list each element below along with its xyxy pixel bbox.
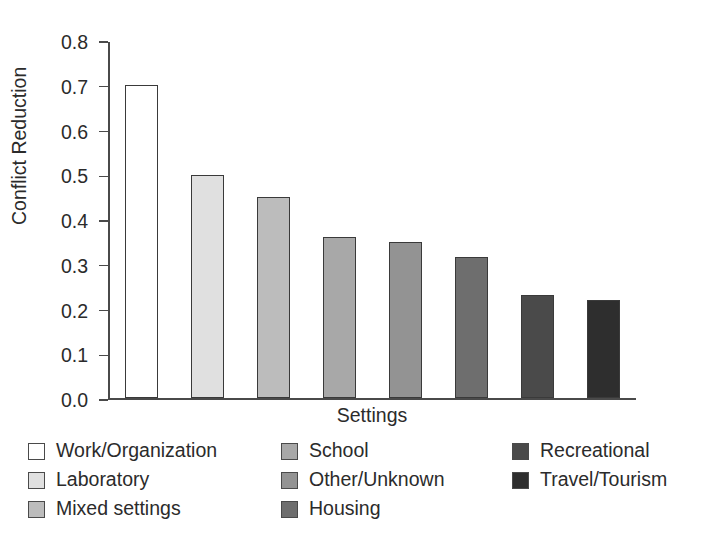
legend-item-label: Travel/Tourism [540,470,667,490]
x-axis-line [108,398,636,400]
y-axis-tick [99,265,108,266]
legend-item: Housing [281,495,444,523]
legend-swatch-icon [281,472,298,489]
legend-column-2: SchoolOther/UnknownHousing [281,437,444,524]
legend-swatch-icon [28,443,45,460]
y-axis-tick [99,355,108,356]
y-axis-line [108,42,110,400]
legend-item-label: Mixed settings [56,499,181,519]
y-axis-tick-label: 0.4 [61,210,88,233]
bar-school [323,237,356,398]
legend-column-1: Work/OrganizationLaboratoryMixed setting… [28,437,217,524]
legend-item-label: School [309,441,369,461]
legend-item-label: Recreational [540,441,649,461]
y-axis-tick-label: 0.3 [61,254,88,277]
bar-housing [455,257,488,398]
legend-item: School [281,437,444,465]
y-axis-tick-label: 0.1 [61,344,88,367]
legend-swatch-icon [512,443,529,460]
legend-swatch-icon [512,472,529,489]
bar-travel-tourism [587,300,620,398]
legend-item-label: Laboratory [56,470,149,490]
chart-legend: Work/OrganizationLaboratoryMixed setting… [28,437,688,529]
x-axis-title: Settings [108,404,636,427]
y-axis-tick-label: 0.8 [61,31,88,54]
legend-item: Other/Unknown [281,466,444,494]
legend-column-3: RecreationalTravel/Tourism [512,437,667,495]
bar-recreational [521,295,554,398]
legend-swatch-icon [28,501,45,518]
legend-item-label: Housing [309,499,381,519]
bar-chart-figure: Conflict Reduction 0.00.10.20.30.40.50.6… [0,0,701,541]
legend-item: Laboratory [28,466,217,494]
y-axis-tick-label: 0.0 [61,389,88,412]
y-axis-tick [99,399,108,400]
bar-other-unknown [389,242,422,399]
y-axis-tick-label: 0.2 [61,299,88,322]
y-axis-tick [99,310,108,311]
plot-area [108,42,636,400]
y-axis-tick [99,86,108,87]
y-axis-tick-label: 0.6 [61,120,88,143]
legend-item: Recreational [512,437,667,465]
legend-item: Travel/Tourism [512,466,667,494]
bar-mixed-settings [257,197,290,398]
legend-item: Mixed settings [28,495,217,523]
legend-swatch-icon [28,472,45,489]
y-axis-tick [99,41,108,42]
legend-item-label: Other/Unknown [309,470,444,490]
legend-swatch-icon [281,501,298,518]
y-axis-tick-label: 0.7 [61,75,88,98]
y-axis-tick [99,220,108,221]
legend-item-label: Work/Organization [56,441,217,461]
bar-work-organization [125,85,158,398]
y-axis-tick [99,131,108,132]
y-axis-tick [99,176,108,177]
legend-item: Work/Organization [28,437,217,465]
legend-swatch-icon [281,443,298,460]
bar-laboratory [191,175,224,399]
y-axis-tick-label: 0.5 [61,165,88,188]
y-axis-tick-labels: 0.00.10.20.30.40.50.60.70.8 [0,42,96,400]
